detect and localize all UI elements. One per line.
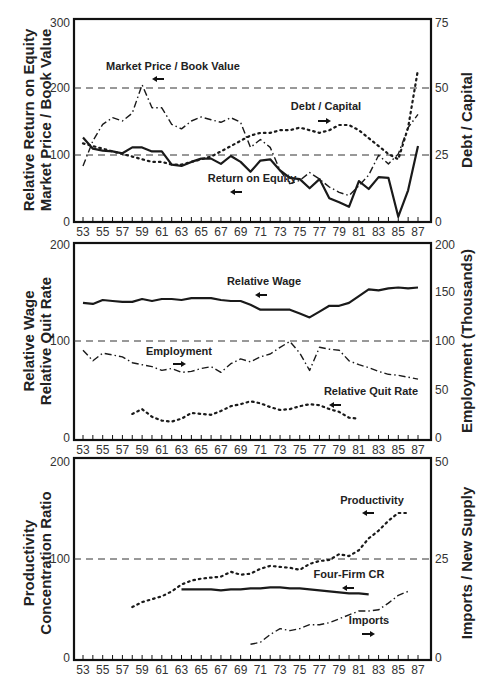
right-tick-25: 25 (435, 552, 449, 566)
left-axis-title-2: Market Price / Book Value (37, 29, 54, 212)
x-tick-label: 63 (175, 663, 189, 677)
left-tick-0: 0 (63, 651, 70, 665)
x-tick-label: 81 (352, 443, 366, 457)
left-tick-200: 200 (50, 455, 70, 469)
x-tick-label: 69 (234, 443, 248, 457)
series-employment (83, 342, 418, 380)
right-tick-0: 0 (435, 431, 442, 445)
x-tick-label: 75 (293, 225, 307, 239)
arrow-left-icon (152, 76, 164, 82)
panel-middle-series (83, 288, 418, 422)
label-debt-capital: Debt / Capital (291, 100, 361, 112)
x-tick-label: 63 (175, 443, 189, 457)
left-tick-200: 200 (50, 238, 70, 252)
x-tick-label: 83 (372, 443, 386, 457)
left-axis-title-2: Relative Quit Rate (37, 277, 54, 405)
panel-middle-x-ticks: 535557596163656769717375777981838587 (76, 435, 425, 457)
left-tick-0: 0 (63, 215, 70, 229)
right-tick-100: 100 (435, 334, 455, 348)
x-tick-label: 73 (273, 225, 287, 239)
arrow-left-icon (362, 510, 374, 516)
arrow-left-icon (329, 402, 341, 408)
x-tick-label: 65 (195, 225, 209, 239)
right-tick-150: 150 (435, 285, 455, 299)
x-tick-label: 67 (214, 663, 228, 677)
x-tick-label: 77 (313, 663, 327, 677)
x-tick-label: 81 (352, 225, 366, 239)
x-tick-label: 87 (411, 663, 425, 677)
x-tick-label: 73 (273, 663, 287, 677)
x-tick-label: 61 (155, 663, 169, 677)
right-tick-50: 50 (435, 81, 449, 95)
x-tick-label: 83 (372, 663, 386, 677)
x-tick-label: 75 (293, 663, 307, 677)
x-tick-label: 57 (116, 443, 130, 457)
x-tick-label: 71 (254, 225, 268, 239)
left-tick-0: 0 (63, 431, 70, 445)
arrow-left-icon (255, 292, 267, 298)
x-tick-label: 87 (411, 443, 425, 457)
label-imports: Imports (349, 614, 389, 626)
left-axis-title-1: Relative Return on Equity (20, 28, 37, 211)
x-tick-label: 69 (234, 225, 248, 239)
right-tick-0: 0 (435, 215, 442, 229)
right-tick-25: 25 (435, 148, 449, 162)
right-axis-title: Employment (Thousands) (458, 249, 475, 433)
x-tick-label: 55 (96, 225, 110, 239)
x-tick-label: 63 (175, 225, 189, 239)
x-tick-label: 83 (372, 225, 386, 239)
series-debt-capital (83, 70, 418, 165)
x-tick-label: 67 (214, 225, 228, 239)
label-return-on-equity: Return on Equity (208, 172, 297, 184)
right-tick-50: 50 (435, 455, 449, 469)
x-tick-label: 71 (254, 443, 268, 457)
x-tick-label: 65 (195, 663, 209, 677)
x-tick-label: 57 (116, 225, 130, 239)
label-employment: Employment (146, 345, 212, 357)
label-relative-wage: Relative Wage (227, 275, 301, 287)
arrow-right-icon (173, 361, 186, 367)
panel-top-frame (74, 19, 431, 222)
arrow-right-icon (318, 118, 331, 124)
steel-industry-multi-panel-chart: 0 100 200 300 0 25 50 75 Relative Return… (0, 0, 487, 693)
label-productivity: Productivity (340, 494, 404, 506)
series-relative-wage (83, 288, 418, 318)
x-tick-label: 61 (155, 443, 169, 457)
panel-top: 0 100 200 300 0 25 50 75 Relative Return… (20, 16, 475, 229)
x-tick-label: 79 (332, 663, 346, 677)
x-tick-label: 59 (135, 663, 149, 677)
x-tick-label: 53 (76, 443, 90, 457)
x-tick-label: 81 (352, 663, 366, 677)
panel-bottom-x-ticks: 535557596163656769717375777981838587 (76, 655, 425, 677)
x-tick-label: 59 (135, 225, 149, 239)
x-tick-label: 75 (293, 443, 307, 457)
series-relative-quit-rate (132, 401, 359, 421)
panel-middle: 535557596163656769717375777981838587 0 1… (20, 238, 475, 457)
x-tick-label: 71 (254, 663, 268, 677)
right-tick-50: 50 (435, 383, 449, 397)
x-tick-label: 59 (135, 443, 149, 457)
x-tick-label: 55 (96, 443, 110, 457)
right-axis-title: Debt / Capital (458, 72, 475, 168)
x-tick-label: 85 (392, 225, 406, 239)
series-productivity (132, 513, 408, 607)
label-four-firm-cr: Four-Firm CR (314, 568, 385, 580)
left-axis-title-2: Concentration Ratio (37, 491, 54, 634)
x-tick-label: 53 (76, 663, 90, 677)
right-tick-75: 75 (435, 16, 449, 30)
x-tick-label: 73 (273, 443, 287, 457)
x-tick-label: 61 (155, 225, 169, 239)
x-tick-label: 85 (392, 443, 406, 457)
left-axis-title-1: Productivity (20, 519, 37, 606)
right-axis-title: Imports / New Supply (458, 486, 475, 639)
series-four-firm-cr (182, 587, 369, 594)
x-tick-label: 55 (96, 663, 110, 677)
x-tick-label: 77 (313, 443, 327, 457)
left-tick-300: 300 (50, 16, 70, 30)
right-tick-0: 0 (435, 651, 442, 665)
x-tick-label: 77 (313, 225, 327, 239)
arrow-left-icon (230, 189, 242, 195)
arrow-left-icon (342, 585, 354, 591)
x-tick-label: 87 (411, 225, 425, 239)
x-tick-label: 79 (332, 443, 346, 457)
